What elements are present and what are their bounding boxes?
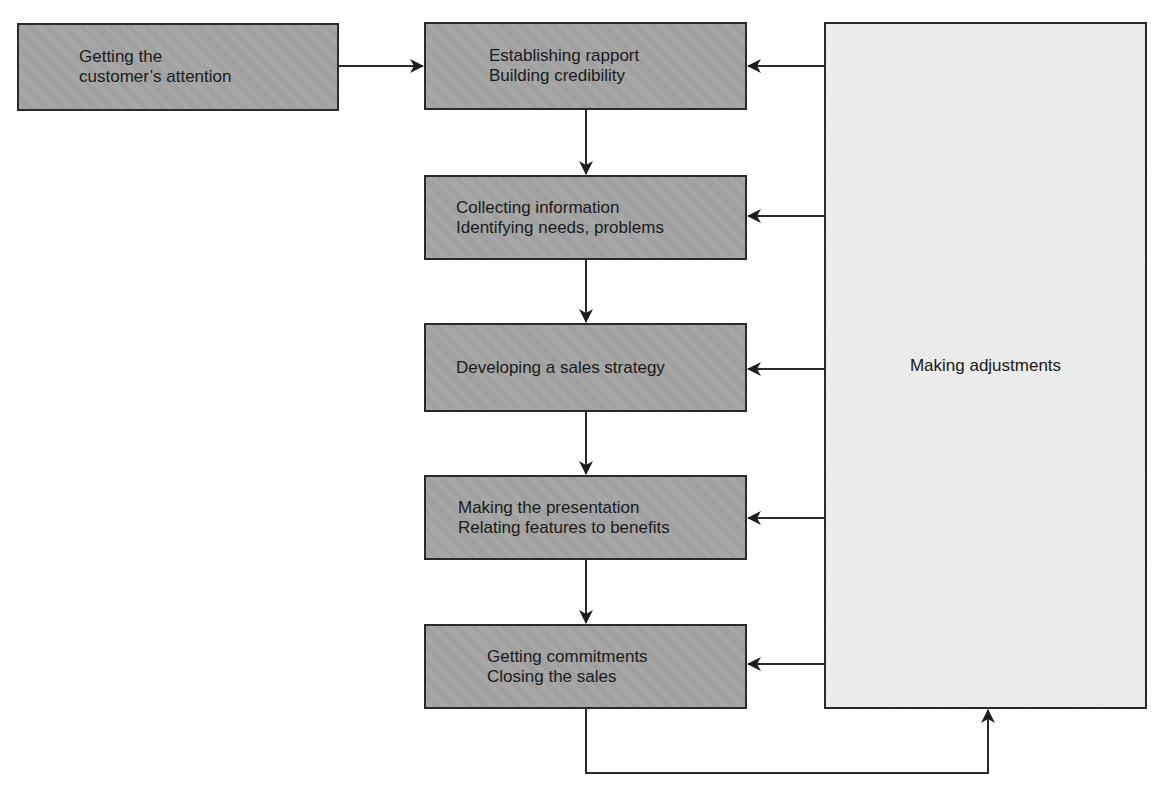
node-making-presentation: Making the presentation Relating feature…	[424, 475, 747, 560]
node-getting-commitments: Getting commitments Closing the sales	[424, 624, 747, 709]
sales-process-diagram: Getting the customer’s attention Establi…	[0, 0, 1163, 793]
edge-step-5-to-feedback	[586, 709, 988, 773]
node-label: Making the presentation Relating feature…	[458, 498, 670, 538]
node-getting-attention: Getting the customer’s attention	[17, 23, 339, 111]
node-label: Developing a sales strategy	[456, 358, 665, 378]
node-developing-strategy: Developing a sales strategy	[424, 323, 747, 412]
node-collecting-information: Collecting information Identifying needs…	[424, 175, 747, 260]
node-label: Establishing rapport Building credibilit…	[489, 46, 639, 86]
node-label: Collecting information Identifying needs…	[456, 198, 664, 238]
node-label: Making adjustments	[910, 356, 1061, 376]
node-making-adjustments: Making adjustments	[824, 22, 1147, 709]
node-label: Getting commitments Closing the sales	[487, 647, 648, 687]
node-establishing-rapport: Establishing rapport Building credibilit…	[424, 22, 747, 110]
node-label: Getting the customer’s attention	[79, 47, 231, 87]
